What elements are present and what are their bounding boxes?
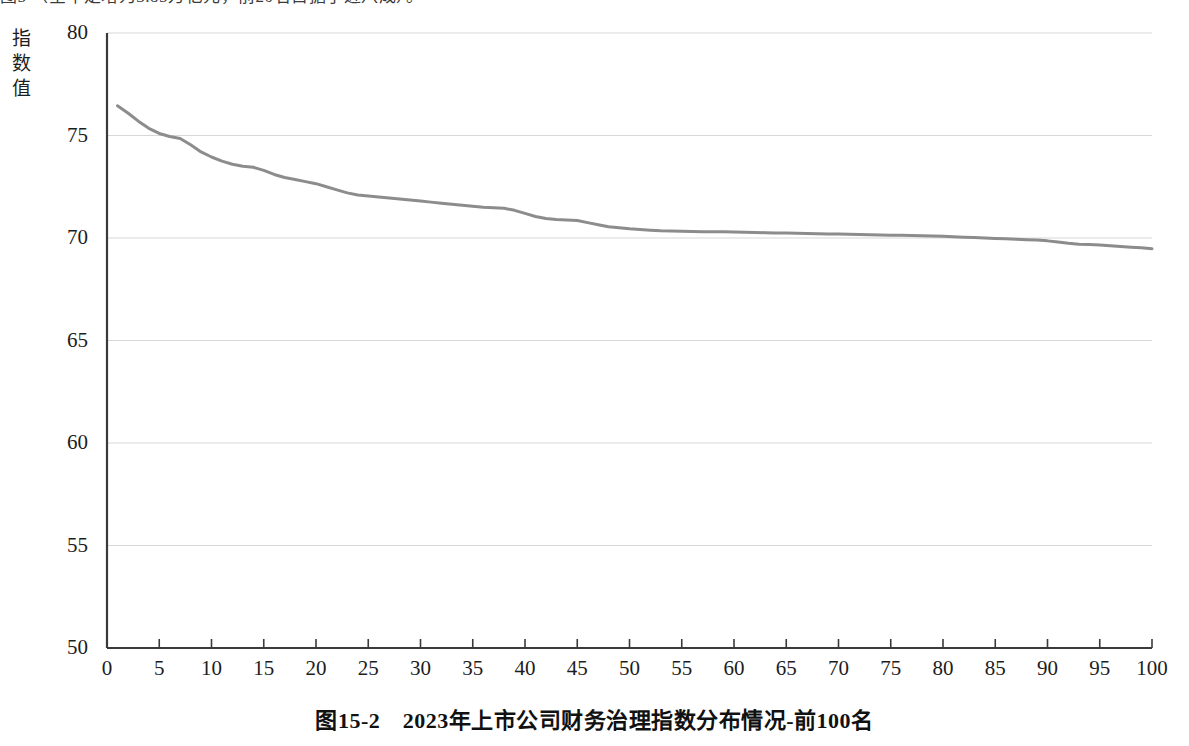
x-tick-label: 70	[828, 656, 849, 680]
x-tick-label: 15	[253, 656, 274, 680]
x-tick-label: 80	[933, 656, 954, 680]
x-tick-label: 5	[154, 656, 165, 680]
plot-area-wrapper: 指数值 50556065707580 051015202530354045505…	[0, 0, 1189, 700]
x-tick-label: 60	[724, 656, 745, 680]
x-tick-label: 75	[880, 656, 901, 680]
x-tick-label: 90	[1037, 656, 1058, 680]
x-tick-label: 35	[462, 656, 483, 680]
x-tick-label: 50	[619, 656, 640, 680]
x-tick-label: 30	[410, 656, 431, 680]
data-series-line	[117, 106, 1152, 249]
axis-ticks	[107, 639, 1152, 648]
x-tick-label: 10	[201, 656, 222, 680]
x-tick-label: 95	[1089, 656, 1110, 680]
x-tick-label: 100	[1136, 656, 1168, 680]
x-tick-label: 20	[306, 656, 327, 680]
x-tick-label: 55	[671, 656, 692, 680]
x-tick-label: 85	[985, 656, 1006, 680]
x-tick-label: 45	[567, 656, 588, 680]
line-chart	[0, 0, 1189, 700]
x-tick-label: 65	[776, 656, 797, 680]
figure-container: 指数值 50556065707580 051015202530354045505…	[0, 0, 1189, 746]
x-tick-label: 0	[102, 656, 113, 680]
gridlines	[107, 33, 1152, 546]
x-tick-label: 25	[358, 656, 379, 680]
x-axis-tick-labels: 0510152025303540455055606570758085909510…	[0, 656, 1189, 690]
x-tick-label: 40	[515, 656, 536, 680]
figure-caption: 图15-2 2023年上市公司财务治理指数分布情况-前100名	[0, 706, 1189, 736]
